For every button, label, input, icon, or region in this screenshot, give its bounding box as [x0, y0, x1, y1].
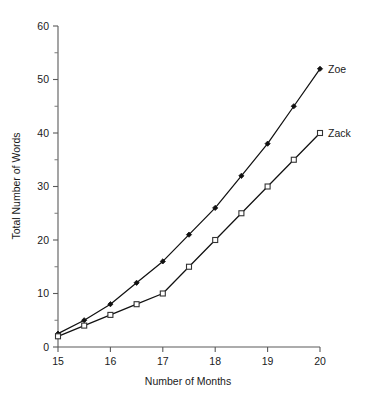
y-tick-label: 0 — [43, 341, 49, 353]
series-line-zoe — [58, 69, 320, 334]
marker-zack — [56, 334, 61, 339]
y-tick-label: 10 — [37, 287, 49, 299]
y-axis: 0102030405060 — [37, 20, 58, 353]
line-chart: 0102030405060 151617181920 ZoeZack Total… — [0, 0, 366, 400]
y-tick-label: 40 — [37, 127, 49, 139]
series-layer — [55, 66, 322, 339]
y-tick-label: 50 — [37, 73, 49, 85]
marker-zack — [187, 264, 192, 269]
x-tick-label: 16 — [105, 355, 117, 367]
marker-zack — [160, 291, 165, 296]
marker-zack — [108, 312, 113, 317]
x-axis: 151617181920 — [52, 347, 326, 367]
x-tick-label: 17 — [157, 355, 169, 367]
y-tick-label: 60 — [37, 20, 49, 32]
series-label-zoe: Zoe — [328, 63, 346, 75]
x-tick-label: 19 — [262, 355, 274, 367]
chart-container: 0102030405060 151617181920 ZoeZack Total… — [0, 0, 366, 400]
y-tick-label: 30 — [37, 180, 49, 192]
y-axis-title: Total Number of Words — [10, 132, 22, 239]
series-label-zack: Zack — [328, 127, 352, 139]
x-tick-label: 18 — [209, 355, 221, 367]
series-label-layer: ZoeZack — [328, 63, 352, 139]
marker-zack — [291, 157, 296, 162]
marker-zack — [239, 211, 244, 216]
marker-zack — [213, 238, 218, 243]
marker-zack — [318, 131, 323, 136]
marker-zack — [82, 323, 87, 328]
x-tick-label: 20 — [314, 355, 326, 367]
marker-zack — [134, 302, 139, 307]
marker-zack — [265, 184, 270, 189]
x-tick-label: 15 — [52, 355, 64, 367]
y-tick-label: 20 — [37, 234, 49, 246]
x-axis-title: Number of Months — [145, 375, 231, 387]
